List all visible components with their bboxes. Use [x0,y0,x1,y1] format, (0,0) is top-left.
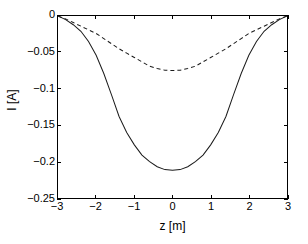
x-tick [172,195,173,199]
x-tick [249,195,250,199]
x-tick [57,195,58,199]
x-tick [134,195,135,199]
y-tick [57,51,61,52]
dashed-curve [58,16,287,71]
x-tick-label: −3 [37,201,77,212]
x-axis-title: z [m] [57,219,288,233]
y-tick-label: −0.05 [9,46,55,57]
x-tick-label: 0 [153,201,193,212]
x-tick-label: −1 [114,201,154,212]
y-tick [57,162,61,163]
solid-curve [58,16,287,170]
y-tick [284,51,288,52]
y-tick-label: 0 [9,9,55,20]
y-tick-label: −0.2 [9,156,55,167]
figure: 0−0.05−0.1−0.15−0.2−0.25 −3−2−10123 z [m… [0,0,308,244]
x-tick [95,195,96,199]
curve-canvas [58,16,287,198]
y-axis-title: I [A] [5,70,19,130]
x-tick [134,15,135,19]
x-tick [249,15,250,19]
y-tick [57,88,61,89]
x-tick [95,15,96,19]
x-tick [211,195,212,199]
x-tick [288,195,289,199]
x-tick-label: −2 [76,201,116,212]
x-tick [288,15,289,19]
x-tick [57,15,58,19]
x-tick-label: 1 [191,201,231,212]
y-tick [284,162,288,163]
x-tick-label: 2 [230,201,270,212]
plot-area [57,15,288,199]
x-tick [172,15,173,19]
x-tick-label: 3 [268,201,308,212]
y-tick [284,88,288,89]
y-tick [57,125,61,126]
y-tick [57,15,61,16]
x-tick [211,15,212,19]
y-tick [284,125,288,126]
